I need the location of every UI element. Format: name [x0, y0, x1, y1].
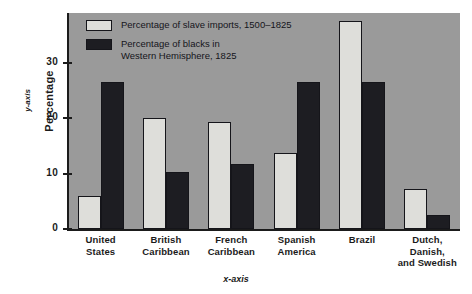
- x-axis-category-labels: UnitedStatesBritishCaribbeanFrenchCaribb…: [68, 234, 460, 269]
- x-axis-category-label: UnitedStates: [68, 234, 133, 269]
- category-label-line: Caribbean: [133, 246, 198, 258]
- x-axis-category-label: Dutch, Danish,and Swedish: [395, 234, 460, 269]
- bar-group: [395, 13, 460, 229]
- chart-figure: 0102030 y-axis Percentage x-axis UnitedS…: [0, 0, 472, 294]
- bar: [101, 82, 124, 229]
- bar: [166, 172, 189, 229]
- category-label-line: United: [68, 234, 133, 246]
- bar: [297, 82, 320, 229]
- category-label-line: States: [68, 246, 133, 258]
- bar: [427, 215, 450, 229]
- x-axis-category-label: BritishCaribbean: [133, 234, 198, 269]
- bar: [362, 82, 385, 229]
- bar-group: [329, 13, 394, 229]
- x-axis-category-label: SpanishAmerica: [264, 234, 329, 269]
- category-label-line: French: [199, 234, 264, 246]
- category-label-line: British: [133, 234, 198, 246]
- bar: [78, 196, 101, 229]
- category-label-line: Brazil: [329, 234, 394, 246]
- legend-label: Percentage of slave imports, 1500–1825: [121, 19, 292, 31]
- category-label-line: Dutch, Danish,: [395, 234, 460, 257]
- bar: [208, 122, 231, 229]
- legend-item: Percentage of blacks in Western Hemisphe…: [86, 38, 292, 61]
- category-label-line: Spanish: [264, 234, 329, 246]
- y-axis-title: Percentage: [43, 66, 55, 136]
- bar: [274, 153, 297, 229]
- x-axis-line: [67, 229, 460, 231]
- bar: [339, 21, 362, 229]
- bar: [231, 164, 254, 229]
- bar: [143, 118, 166, 229]
- legend-item: Percentage of slave imports, 1500–1825: [86, 19, 292, 31]
- y-axis-tag: y-axis: [23, 73, 32, 129]
- category-label-line: Caribbean: [199, 246, 264, 258]
- y-axis-tick-label: 0: [30, 222, 58, 233]
- category-label-line: and Swedish: [395, 257, 460, 269]
- legend-swatch: [86, 20, 112, 31]
- legend-swatch: [86, 39, 112, 50]
- y-axis-tick-label: 10: [30, 167, 58, 178]
- x-axis-category-label: Brazil: [329, 234, 394, 269]
- bar: [404, 189, 427, 229]
- x-axis-title: x-axis: [0, 274, 472, 284]
- x-axis-category-label: FrenchCaribbean: [199, 234, 264, 269]
- legend-label: Percentage of blacks in Western Hemisphe…: [121, 38, 236, 61]
- chart-legend: Percentage of slave imports, 1500–1825Pe…: [86, 19, 292, 61]
- category-label-line: America: [264, 246, 329, 258]
